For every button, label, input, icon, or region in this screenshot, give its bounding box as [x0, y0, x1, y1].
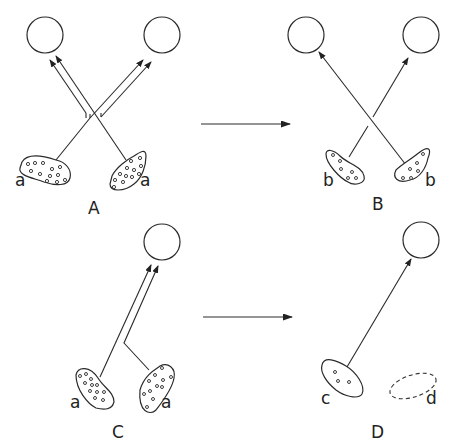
panel-label-a: A: [88, 198, 100, 218]
axon-right: [124, 266, 158, 370]
target-cell-right: [144, 17, 180, 53]
panel-label-c: C: [112, 422, 124, 442]
input-cluster-left: [76, 369, 114, 410]
panel-b: b b B: [288, 17, 439, 214]
axon-left-to-right-upper: [373, 58, 408, 117]
axon-c: [347, 259, 411, 367]
target-cell-left: [288, 17, 324, 53]
input-label-c: c: [321, 388, 330, 408]
input-cluster-left: [20, 156, 71, 185]
input-label-right: a: [161, 392, 171, 412]
panel-a: a a A: [15, 17, 180, 218]
target-cell-left: [27, 17, 63, 53]
input-label-right: a: [140, 170, 150, 190]
axon-right-to-left: [50, 56, 126, 160]
panel-c: a a C: [70, 224, 180, 442]
input-label-right: b: [425, 170, 436, 190]
input-label-left: a: [70, 392, 80, 412]
axon-left-to-right: [349, 126, 368, 157]
input-label-left: b: [323, 170, 334, 190]
input-label-d: d: [426, 388, 437, 408]
input-label-left: a: [15, 170, 25, 190]
panel-label-d: D: [371, 422, 384, 442]
panel-label-b: B: [372, 194, 384, 214]
axon-left-to-right: [56, 60, 151, 160]
axon-left: [100, 265, 151, 377]
figure-canvas: a a A b b B: [0, 0, 451, 448]
axon-right-to-left: [319, 52, 406, 165]
target-cell-right: [403, 17, 439, 53]
panel-d: c d D: [321, 222, 439, 442]
target-cell: [403, 222, 439, 258]
target-cell: [144, 224, 180, 260]
